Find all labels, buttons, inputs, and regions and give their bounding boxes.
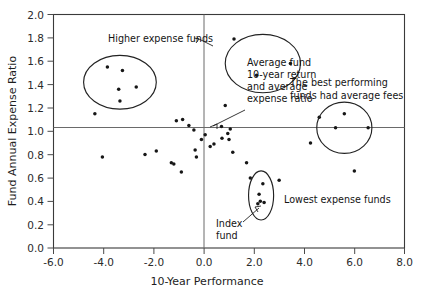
data-point (118, 99, 122, 103)
data-point (334, 126, 338, 130)
y-tick-label: 0.6 (27, 172, 44, 184)
y-tick-label: 2.0 (27, 9, 44, 21)
data-point (134, 85, 138, 89)
data-point (261, 182, 265, 186)
data-point (172, 162, 176, 166)
annotation-index-fund: Index fund (216, 218, 243, 241)
data-point (220, 125, 224, 129)
data-point (180, 170, 184, 174)
y-tick-label: 1.8 (27, 32, 44, 44)
chart-svg: 2.0 1.8 1.6 1.4 1.2 1.0 0.8 0.6 0.4 0.2 … (0, 0, 424, 294)
data-point (187, 124, 191, 128)
data-point (262, 201, 266, 205)
x-axis-title: 10-Year Performance (150, 275, 263, 288)
plot-frame (54, 15, 405, 249)
x-tick-label: -4.0 (93, 256, 114, 268)
data-point (93, 112, 97, 116)
svg-text:Average fund: Average fund (247, 57, 311, 68)
data-point (121, 69, 125, 73)
data-point (257, 193, 261, 197)
scatter-chart-figure: 2.0 1.8 1.6 1.4 1.2 1.0 0.8 0.6 0.4 0.2 … (0, 0, 424, 294)
data-point (195, 155, 199, 159)
x-tick-label: -6.0 (43, 256, 64, 268)
annotation-lowest-expense-funds: Lowest expense funds (284, 194, 391, 205)
data-point (192, 128, 196, 132)
x-tick-labels: -6.0 -4.0 -2.0 0.0 2.0 4.0 6.0 8.0 (43, 256, 413, 268)
data-point (143, 153, 147, 157)
arrowhead-average-fund-note (210, 124, 217, 129)
data-point (208, 145, 212, 149)
x-axis-ticks (54, 248, 405, 254)
svg-text:funds had average fees: funds had average fees (290, 90, 403, 101)
data-point (226, 132, 230, 136)
y-axis-title: Fund Annual Expense Ratio (6, 56, 19, 207)
data-point (220, 137, 224, 141)
data-point (117, 87, 121, 91)
y-tick-label: 1.6 (27, 55, 44, 67)
x-tick-label: 6.0 (346, 256, 363, 268)
data-points-layer (93, 37, 370, 205)
x-tick-label: 8.0 (396, 256, 413, 268)
data-point (155, 149, 159, 153)
x-tick-label: -2.0 (144, 256, 165, 268)
svg-text:fund: fund (216, 230, 238, 241)
svg-text:The best performing: The best performing (289, 77, 388, 88)
data-point (227, 138, 231, 142)
y-tick-label: 0.4 (27, 195, 44, 207)
data-point (245, 161, 249, 165)
svg-text:Index: Index (216, 218, 243, 229)
data-point (203, 133, 207, 137)
data-point (256, 202, 260, 206)
data-point (223, 104, 227, 108)
x-tick-label: 0.0 (196, 256, 213, 268)
data-point (101, 155, 105, 159)
data-point (231, 151, 235, 155)
data-point (181, 118, 185, 122)
y-tick-label: 0.2 (27, 219, 44, 231)
data-point (106, 65, 110, 69)
x-tick-label: 2.0 (246, 256, 263, 268)
y-axis-ticks (48, 15, 54, 249)
data-point (193, 148, 197, 152)
data-point (366, 126, 370, 130)
y-tick-label: 0.8 (27, 149, 44, 161)
y-tick-label: 0.0 (27, 242, 44, 254)
y-tick-label: 1.0 (27, 125, 44, 137)
leader-average-fund-note (213, 110, 245, 126)
data-point (175, 119, 179, 123)
data-point (277, 179, 281, 183)
data-point (232, 37, 236, 41)
data-point (212, 142, 216, 146)
data-point (200, 138, 204, 142)
annotation-texts: Higher expense funds Average fund 10-yea… (108, 33, 403, 241)
data-point (353, 169, 357, 173)
data-point (343, 112, 347, 116)
y-tick-label: 1.2 (27, 102, 44, 114)
x-tick-label: 4.0 (296, 256, 313, 268)
data-point (309, 141, 313, 145)
data-point (229, 127, 233, 131)
y-tick-label: 1.4 (27, 79, 44, 91)
y-tick-labels: 2.0 1.8 1.6 1.4 1.2 1.0 0.8 0.6 0.4 0.2 … (27, 9, 44, 255)
cluster-ellipse-lowest-expense-cluster (249, 171, 274, 220)
annotation-higher-expense-funds: Higher expense funds (108, 33, 213, 44)
